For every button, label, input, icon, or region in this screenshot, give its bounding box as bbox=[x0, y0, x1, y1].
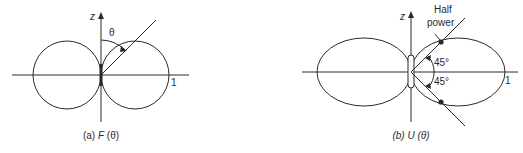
lower-angle-label: 45° bbox=[434, 76, 449, 87]
caption-arg-a: (θ) bbox=[107, 130, 119, 141]
z-label-a: z bbox=[89, 11, 95, 22]
half-power-label-line2: power bbox=[427, 17, 455, 28]
lower-angle-arrow-icon bbox=[425, 83, 431, 89]
lower-half-power-point-icon bbox=[438, 99, 443, 104]
theta-label-a: θ bbox=[109, 27, 115, 38]
caption-prefix-b: (b) bbox=[392, 130, 404, 141]
caption-func-b: U bbox=[407, 130, 415, 141]
half-power-leader-line bbox=[435, 34, 440, 40]
caption-b: (b) U (θ) bbox=[392, 130, 429, 141]
half-power-label-line1: Half bbox=[434, 4, 452, 15]
caption-prefix-a: (a) bbox=[83, 130, 95, 141]
figure-b: z Half power 45° 45° 1 (b) U (θ) bbox=[302, 4, 518, 141]
upper-half-power-point-icon bbox=[438, 39, 443, 44]
theta-arrow-icon-a bbox=[120, 46, 127, 52]
caption-arg-b: (θ) bbox=[417, 130, 429, 141]
figure-a: z θ 1 (a) F (θ) bbox=[12, 11, 189, 141]
upper-angle-label: 45° bbox=[434, 57, 449, 68]
z-label-b: z bbox=[399, 11, 405, 22]
z-axis-arrow-icon-a bbox=[98, 12, 104, 19]
caption-func-a: F bbox=[98, 130, 105, 141]
upper-angle-arrow-icon bbox=[425, 55, 431, 61]
caption-a: (a) F (θ) bbox=[83, 130, 119, 141]
z-axis-arrow-icon-b bbox=[408, 11, 414, 18]
antenna-pattern-diagram: z θ 1 (a) F (θ) z Half power 45° 45° 1 (… bbox=[0, 0, 523, 153]
scale-label-b: 1 bbox=[505, 75, 511, 86]
scale-label-a: 1 bbox=[171, 77, 177, 88]
